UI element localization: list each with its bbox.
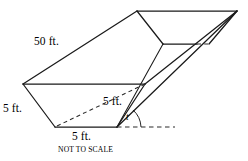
long-top-left-edge [23, 11, 137, 84]
near-end-left-edge [23, 84, 55, 127]
trough-diagram-svg [0, 0, 248, 161]
long-top-right-edge [145, 11, 237, 84]
length-dimension-label: 50 ft. [34, 36, 59, 48]
not-to-scale-note: NOT TO SCALE [58, 146, 113, 154]
inner-width-dimension-label: 5 ft. [103, 96, 122, 108]
far-end-right-edge [209, 11, 237, 44]
long-inner-floor-edge [117, 44, 163, 127]
long-bottom-right-edge [117, 11, 237, 127]
left-height-dimension-label: 5 ft. [3, 103, 22, 115]
far-end-left-edge [137, 11, 163, 44]
angle-arc [133, 110, 141, 127]
bottom-width-dimension-label: 5 ft. [72, 131, 91, 143]
angle-variable-label: t [126, 113, 129, 123]
figure-container: 50 ft. 5 ft. 5 ft. 5 ft. t NOT TO SCALE [0, 0, 248, 161]
